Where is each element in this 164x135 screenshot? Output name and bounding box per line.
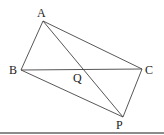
label-c: C: [145, 63, 153, 77]
segment-cp: [123, 69, 142, 117]
segment-bc: [21, 69, 142, 70]
label-q: Q: [73, 71, 82, 85]
label-a: A: [37, 6, 46, 20]
label-b: B: [9, 63, 17, 77]
segment-ab: [21, 21, 43, 70]
label-p: P: [116, 118, 123, 132]
geometry-diagram: A B C Q P: [0, 0, 164, 135]
segment-ac: [43, 21, 142, 69]
segment-bp: [21, 70, 123, 117]
